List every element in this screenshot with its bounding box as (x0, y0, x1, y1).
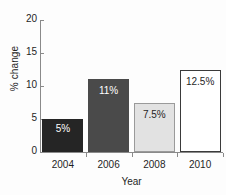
bar-value-label: 11% (89, 85, 128, 96)
bar-value-label: 12.5% (181, 76, 220, 87)
x-axis-title: Year (40, 176, 223, 187)
bar[interactable]: 5% (42, 119, 83, 152)
bar-chart: % change 05101520 2004200620082010 5%11%… (0, 0, 226, 195)
bar-value-label: 5% (43, 123, 82, 134)
bar-value-label: 7.5% (135, 109, 174, 120)
bar[interactable]: 7.5% (134, 103, 175, 153)
plot-area: 5%11%7.5%12.5% (0, 0, 226, 195)
bar[interactable]: 12.5% (180, 70, 221, 153)
bar[interactable]: 11% (88, 79, 129, 152)
